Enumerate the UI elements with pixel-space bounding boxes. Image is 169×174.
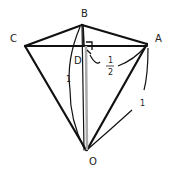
edge-BA — [82, 25, 147, 44]
half-numerator: 1 — [108, 56, 113, 65]
right-angle-marker-2 — [87, 50, 91, 54]
pyramid-diagram: B C A D O 1 1 1 2 — [0, 0, 169, 174]
altitude-DO — [86, 46, 87, 150]
label-O: O — [89, 156, 97, 167]
length-OA: 1 — [140, 99, 145, 108]
label-B: B — [81, 8, 88, 19]
edge-CB — [25, 25, 82, 46]
label-C: C — [10, 33, 17, 44]
length-OB: 1 — [66, 75, 71, 84]
half-denominator: 2 — [108, 68, 113, 77]
label-A: A — [155, 33, 162, 44]
label-D: D — [74, 55, 82, 66]
edge-BD — [83, 25, 84, 46]
brace-half — [90, 46, 146, 66]
edge-AO — [87, 44, 147, 150]
